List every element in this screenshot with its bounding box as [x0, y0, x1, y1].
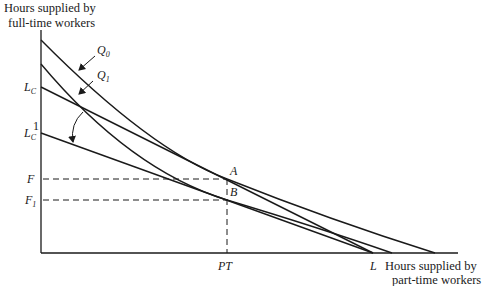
q0-label: Q0 [97, 43, 110, 59]
isoquant-q1 [41, 64, 392, 253]
f1-subscript: 1 [32, 200, 36, 209]
budget-line-lc1 [41, 133, 373, 253]
f1-label: F1 [24, 193, 36, 209]
q1-label: Q1 [97, 68, 110, 84]
lc-label: LC [23, 80, 37, 96]
lc1-subscript: C [31, 133, 37, 142]
diagram-canvas: Hours supplied by full-time workers Hour… [0, 0, 486, 286]
y-axis-title-line1: Hours supplied by [4, 1, 96, 15]
point-a-label: A [229, 164, 238, 178]
q1-letter: Q [97, 68, 106, 82]
lc-subscript: C [31, 87, 37, 96]
f-label: F [26, 172, 35, 186]
q1-subscript: 1 [106, 75, 110, 84]
y-axis-title-line2: full-time workers [8, 16, 95, 30]
x-axis-title-line2: part-time workers [392, 273, 481, 286]
q0-arrow-icon [79, 56, 95, 70]
budget-line-lc [41, 87, 373, 253]
point-b-label: B [230, 185, 238, 199]
x-axis-title-line1: Hours supplied by [385, 259, 477, 273]
pt-label: PT [217, 259, 233, 273]
rotation-arrow-icon [72, 112, 83, 142]
l-label: L [369, 259, 377, 273]
lc1-superscript: 1 [33, 119, 39, 133]
q0-subscript: 0 [106, 50, 110, 59]
q0-letter: Q [97, 43, 106, 57]
